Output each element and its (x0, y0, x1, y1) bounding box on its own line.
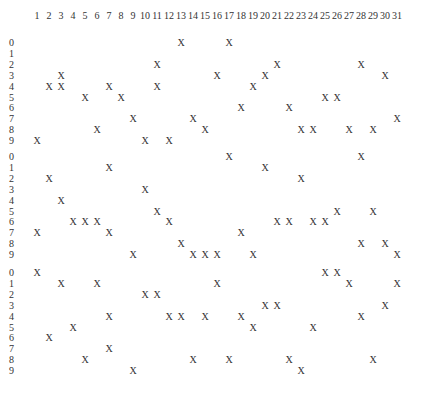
row-label: 6 (9, 332, 14, 343)
row-label: 1 (9, 162, 14, 173)
x-mark: X (105, 311, 112, 322)
x-mark: X (237, 102, 244, 113)
x-mark: X (381, 70, 388, 81)
grid-row: 3XXXX (0, 70, 423, 81)
row-label: 5 (9, 322, 14, 333)
x-mark: X (369, 354, 376, 365)
column-label: 3 (59, 10, 64, 21)
x-mark: X (93, 124, 100, 135)
x-mark: X (213, 249, 220, 260)
x-mark: X (381, 238, 388, 249)
x-mark: X (273, 216, 280, 227)
x-mark: X (333, 92, 340, 103)
x-mark: X (165, 135, 172, 146)
row-label: 7 (9, 227, 14, 238)
grid-row: 9XXXXXX (0, 249, 423, 260)
x-mark: X (141, 135, 148, 146)
row-label: 0 (9, 37, 14, 48)
grid-row: 5XXXX (0, 92, 423, 103)
x-mark: X (357, 151, 364, 162)
grid-row: 8XXX (0, 238, 423, 249)
column-label: 31 (392, 10, 402, 21)
grid-row: 3XXX (0, 300, 423, 311)
x-mark: X (153, 289, 160, 300)
grid-row: 9XXX (0, 135, 423, 146)
x-mark: X (213, 70, 220, 81)
x-mark: X (393, 278, 400, 289)
x-mark: X (297, 124, 304, 135)
x-mark: X (189, 113, 196, 124)
row-label: 1 (9, 278, 14, 289)
x-mark: X (249, 322, 256, 333)
row-label: 1 (9, 48, 14, 59)
x-mark: X (105, 343, 112, 354)
row-label: 8 (9, 354, 14, 365)
x-mark: X (309, 124, 316, 135)
column-label: 12 (164, 10, 174, 21)
row-label: 9 (9, 249, 14, 260)
x-mark: X (309, 216, 316, 227)
column-label: 11 (152, 10, 162, 21)
x-mark: X (129, 249, 136, 260)
x-mark: X (225, 151, 232, 162)
column-label: 14 (188, 10, 198, 21)
x-mark: X (177, 37, 184, 48)
grid-row: 1XX (0, 162, 423, 173)
column-label: 5 (83, 10, 88, 21)
column-label: 4 (71, 10, 76, 21)
x-mark: X (153, 81, 160, 92)
x-mark: X (321, 267, 328, 278)
x-mark: X (201, 124, 208, 135)
column-label: 22 (284, 10, 294, 21)
row-label: 4 (9, 195, 14, 206)
grid-row: 4X (0, 195, 423, 206)
x-mark: X (261, 300, 268, 311)
x-mark: X (225, 354, 232, 365)
row-label: 4 (9, 311, 14, 322)
x-mark: X (273, 300, 280, 311)
column-label: 19 (248, 10, 258, 21)
x-mark: X (381, 300, 388, 311)
column-label: 9 (131, 10, 136, 21)
x-mark: X (345, 124, 352, 135)
grid-row: 8XXXXXX (0, 124, 423, 135)
row-label: 6 (9, 102, 14, 113)
column-label: 29 (368, 10, 378, 21)
x-mark: X (309, 322, 316, 333)
x-mark: X (261, 162, 268, 173)
x-mark: X (165, 311, 172, 322)
column-label: 25 (320, 10, 330, 21)
column-label: 27 (344, 10, 354, 21)
x-mark: X (105, 227, 112, 238)
x-mark: X (129, 113, 136, 124)
grid-row: 1XXXXX (0, 278, 423, 289)
x-mark: X (105, 81, 112, 92)
x-mark: X (225, 37, 232, 48)
x-mark: X (249, 249, 256, 260)
column-label: 20 (260, 10, 270, 21)
x-mark: X (237, 311, 244, 322)
grid-row: 0XX (0, 151, 423, 162)
grid-row: 0XX (0, 37, 423, 48)
x-mark: X (285, 216, 292, 227)
x-mark: X (333, 267, 340, 278)
column-header: 1234567891011121314151617181920212223242… (0, 10, 423, 24)
column-label: 17 (224, 10, 234, 21)
x-mark: X (153, 206, 160, 217)
row-label: 7 (9, 343, 14, 354)
column-label: 13 (176, 10, 186, 21)
column-label: 18 (236, 10, 246, 21)
x-mark: X (45, 173, 52, 184)
x-mark: X (177, 238, 184, 249)
x-mark: X (45, 81, 52, 92)
x-mark: X (141, 184, 148, 195)
x-mark: X (357, 311, 364, 322)
x-mark: X (189, 249, 196, 260)
x-mark: X (321, 92, 328, 103)
grid-row: 2XXX (0, 59, 423, 70)
x-mark: X (33, 135, 40, 146)
row-label: 5 (9, 206, 14, 217)
x-mark: X (57, 195, 64, 206)
column-label: 7 (107, 10, 112, 21)
x-mark: X (357, 59, 364, 70)
